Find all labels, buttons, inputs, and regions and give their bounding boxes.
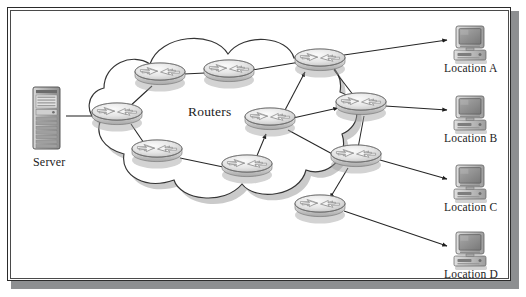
server-icon[interactable]: [33, 87, 60, 149]
link-r6-location-b: [385, 106, 447, 110]
network-diagram-figure: Routers Server Location A Location B Loc…: [0, 0, 526, 297]
location-d-label: Location D: [444, 268, 498, 280]
desktop-computer-icon-location-c[interactable]: [454, 165, 487, 203]
router-south-mid[interactable]: [222, 155, 272, 184]
router-west[interactable]: [92, 103, 142, 132]
location-c-label: Location C: [444, 201, 497, 213]
router-east-lower[interactable]: [331, 145, 381, 174]
router-center[interactable]: [245, 108, 295, 137]
link-r9-location-c: [380, 160, 447, 179]
router-north-left[interactable]: [135, 63, 185, 92]
desktop-computer-icon-location-a[interactable]: [454, 26, 487, 64]
location-b-label: Location B: [444, 132, 497, 144]
desktop-computer-icon-location-d[interactable]: [454, 232, 487, 270]
desktop-computer-icon-location-b[interactable]: [454, 96, 487, 134]
router-south-left[interactable]: [132, 140, 182, 169]
router-east-upper[interactable]: [336, 93, 386, 122]
location-a-label: Location A: [444, 62, 497, 74]
routers-label: Routers: [188, 104, 231, 120]
link-r4-location-a: [344, 40, 447, 55]
diagram-canvas: [0, 0, 526, 297]
router-north-east[interactable]: [295, 49, 345, 78]
server-label: Server: [33, 155, 66, 170]
link-r10-location-d: [344, 211, 447, 246]
router-south-east[interactable]: [295, 195, 345, 224]
router-north-mid[interactable]: [204, 60, 254, 89]
